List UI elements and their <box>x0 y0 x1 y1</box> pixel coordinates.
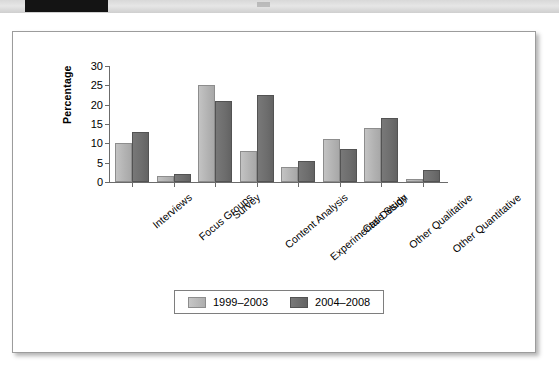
bar <box>240 151 257 182</box>
y-axis-title: Percentage <box>61 65 73 124</box>
y-tick-0 <box>105 182 109 183</box>
bar <box>215 101 232 182</box>
bar <box>323 139 340 182</box>
legend-label: 2004–2008 <box>315 296 370 308</box>
bar <box>406 179 423 182</box>
x-tick <box>215 183 216 187</box>
bar <box>340 149 357 182</box>
x-tick <box>423 183 424 187</box>
bar <box>198 85 215 182</box>
x-tick <box>298 183 299 187</box>
bar-group <box>115 66 149 182</box>
bar-group <box>406 66 440 182</box>
x-axis-label: Case Study <box>359 191 408 235</box>
legend-item: 2004–2008 <box>290 296 370 308</box>
legend-item: 1999–2003 <box>188 296 268 308</box>
x-tick <box>257 183 258 187</box>
bar-group <box>240 66 274 182</box>
y-tick-30 <box>105 66 109 67</box>
page-header-strip <box>0 0 559 13</box>
bar <box>257 95 274 182</box>
y-tick-20 <box>105 105 109 106</box>
header-black-block <box>25 0 108 12</box>
bar-group <box>157 66 191 182</box>
x-tick <box>174 183 175 187</box>
x-axis-line <box>109 182 448 183</box>
bar <box>298 161 315 182</box>
chart-legend: 1999–20032004–2008 <box>174 290 384 314</box>
x-tick <box>132 183 133 187</box>
y-tick-label: 20 <box>91 99 103 111</box>
x-axis-label: Interviews <box>150 191 194 231</box>
y-tick-label: 0 <box>97 176 103 188</box>
y-tick-15 <box>105 124 109 125</box>
legend-label: 1999–2003 <box>213 296 268 308</box>
bar-group <box>281 66 315 182</box>
y-tick-10 <box>105 143 109 144</box>
bar <box>157 176 174 182</box>
plot-area: 302520151050 InterviewsFocus GroupsSurve… <box>109 66 443 182</box>
y-tick-label: 30 <box>91 60 103 72</box>
bar <box>174 174 191 182</box>
bar <box>132 132 149 182</box>
bar <box>423 170 440 182</box>
y-tick-5 <box>105 163 109 164</box>
bar-group <box>364 66 398 182</box>
y-tick-label: 25 <box>91 79 103 91</box>
legend-swatch-icon <box>188 297 206 308</box>
bar <box>364 128 381 182</box>
x-tick <box>381 183 382 187</box>
legend-swatch-icon <box>290 297 308 308</box>
y-tick-label: 5 <box>97 157 103 169</box>
bar <box>381 118 398 182</box>
bar-group <box>323 66 357 182</box>
x-axis-label: Content Analysis <box>282 191 350 250</box>
bar <box>281 167 298 182</box>
x-tick <box>340 183 341 187</box>
figure-frame: Percentage 302520151050 InterviewsFocus … <box>12 31 536 353</box>
header-center-mark <box>257 2 270 7</box>
y-tick-label: 15 <box>91 118 103 130</box>
y-tick-label: 10 <box>91 137 103 149</box>
y-axis-line <box>109 66 110 182</box>
bar <box>115 143 132 182</box>
bar-group <box>198 66 232 182</box>
y-tick-25 <box>105 85 109 86</box>
